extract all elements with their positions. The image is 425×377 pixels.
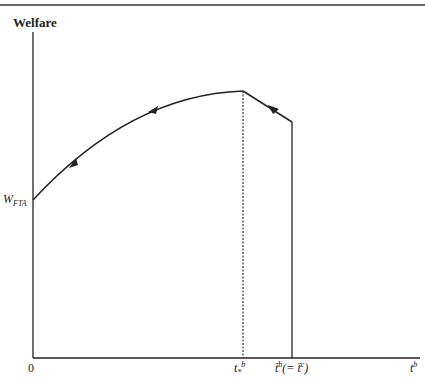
- w-fta-label: WFTA: [3, 192, 27, 208]
- t-bar-label: t̄b(= t̄c): [275, 360, 308, 376]
- y-axis-label: Welfare: [13, 15, 57, 31]
- t-star-label: t*b: [234, 360, 245, 377]
- origin-label: 0: [28, 361, 34, 376]
- x-axis-label: tb: [410, 360, 417, 376]
- welfare-curve-declining: [243, 91, 292, 122]
- welfare-curve-rising: [33, 91, 243, 200]
